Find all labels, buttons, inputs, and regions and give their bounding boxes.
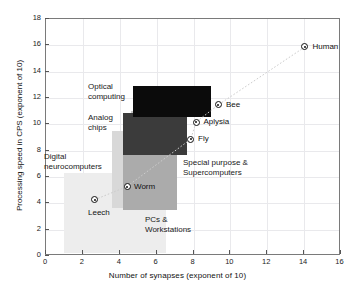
- tick-y-2: [45, 229, 49, 230]
- ticklabel-x-8: 8: [190, 258, 194, 266]
- region-optical-computing: [133, 86, 211, 117]
- tick-x-4: [119, 250, 120, 254]
- data-label-bee: Bee: [226, 101, 240, 109]
- gridline-y-14: [46, 72, 339, 73]
- tick-y-14: [45, 71, 49, 72]
- caption-digital-neurocomputers: Digital neurocomputers: [44, 152, 102, 172]
- ticklabel-x-10: 10: [225, 258, 233, 266]
- ticklabel-y-14: 14: [27, 67, 41, 75]
- ticklabel-x-12: 12: [262, 258, 270, 266]
- tick-x-16: [340, 250, 341, 254]
- region-supercomputer-block: [123, 113, 187, 155]
- caption-analog-line1: Analog: [88, 113, 113, 123]
- ticklabel-y-16: 16: [27, 41, 41, 49]
- data-point-fly[interactable]: [187, 136, 194, 143]
- caption-optical-computing: Optical computing: [88, 82, 125, 102]
- gridline-x-10: [230, 19, 231, 254]
- tick-x-8: [193, 250, 194, 254]
- gridline-x-8: [194, 19, 195, 254]
- data-label-fly: Fly: [198, 135, 209, 143]
- tick-y-0: [45, 255, 49, 256]
- tick-y-16: [45, 44, 49, 45]
- caption-pcs-line1: PCs &: [145, 215, 191, 225]
- ticklabel-y-6: 6: [27, 172, 41, 180]
- ticklabel-y-0: 0: [27, 251, 41, 259]
- data-label-worm: Worm: [134, 183, 155, 191]
- tick-y-18: [45, 18, 49, 19]
- scatter-chart-figure: Leech Worm Fly Aplysia Bee Human Optical…: [0, 0, 355, 295]
- ticklabel-x-16: 16: [335, 258, 343, 266]
- caption-special-line1: Special purpose &: [183, 158, 248, 168]
- data-label-aplysia: Aplysia: [204, 118, 230, 126]
- caption-special-line2: Supercomputers: [183, 168, 248, 178]
- caption-analog-line2: chips: [88, 123, 113, 133]
- ticklabel-x-6: 6: [154, 258, 158, 266]
- ticklabel-y-8: 8: [27, 146, 41, 154]
- gridline-x-12: [267, 19, 268, 254]
- tick-x-10: [229, 250, 230, 254]
- ticklabel-x-4: 4: [117, 258, 121, 266]
- ticklabel-y-12: 12: [27, 93, 41, 101]
- tick-y-8: [45, 150, 49, 151]
- tick-x-12: [266, 250, 267, 254]
- ticklabel-y-4: 4: [27, 199, 41, 207]
- caption-pcs-line2: Workstations: [145, 225, 191, 235]
- tick-y-10: [45, 123, 49, 124]
- data-point-worm[interactable]: [124, 183, 131, 190]
- data-point-aplysia[interactable]: [193, 119, 200, 126]
- gridline-x-14: [304, 19, 305, 254]
- y-axis-label: Processing speed in CPS (exponent of 10): [15, 46, 24, 226]
- tick-y-4: [45, 202, 49, 203]
- tick-x-2: [82, 250, 83, 254]
- ticklabel-y-2: 2: [27, 225, 41, 233]
- ticklabel-y-10: 10: [27, 120, 41, 128]
- ticklabel-y-18: 18: [27, 14, 41, 22]
- tick-x-0: [45, 250, 46, 254]
- gridline-y-16: [46, 45, 339, 46]
- tick-y-12: [45, 97, 49, 98]
- caption-optical-line1: Optical: [88, 82, 125, 92]
- ticklabel-x-0: 0: [43, 258, 47, 266]
- caption-digital-line1: Digital: [44, 152, 102, 162]
- data-label-leech: Leech: [88, 209, 110, 217]
- caption-pcs-workstations: PCs & Workstations: [145, 215, 191, 235]
- ticklabel-x-2: 2: [80, 258, 84, 266]
- caption-analog-chips: Analog chips: [88, 113, 113, 133]
- ticklabel-x-14: 14: [299, 258, 307, 266]
- x-axis-label: Number of synapses (exponent of 10): [0, 271, 355, 280]
- data-label-human: Human: [313, 43, 339, 51]
- caption-optical-line2: computing: [88, 92, 125, 102]
- tick-x-6: [156, 250, 157, 254]
- caption-special-purpose: Special purpose & Supercomputers: [183, 158, 248, 178]
- tick-x-14: [303, 250, 304, 254]
- caption-digital-line2: neurocomputers: [44, 162, 102, 172]
- tick-y-6: [45, 176, 49, 177]
